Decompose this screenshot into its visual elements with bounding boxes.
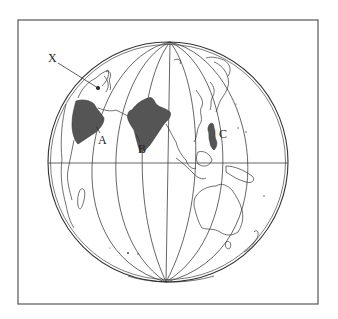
island (245, 131, 246, 132)
island (235, 103, 236, 104)
label-b: B (138, 142, 146, 156)
island (237, 127, 238, 128)
island (127, 252, 129, 254)
label-x: X (48, 51, 57, 65)
label-a: A (98, 133, 107, 147)
island (109, 247, 110, 248)
island (263, 195, 264, 196)
label-c: C (219, 127, 227, 141)
island (137, 253, 139, 255)
globe-map: X A B C (0, 0, 338, 319)
